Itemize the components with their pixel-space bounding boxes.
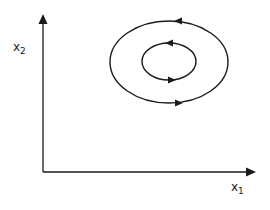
x-axis-arrow-icon bbox=[246, 168, 256, 177]
inner-orbit-arrow-bottom-icon bbox=[168, 77, 176, 84]
outer-orbit-arrow-bottom-icon bbox=[175, 100, 183, 107]
x-axis-label: x1 bbox=[231, 180, 244, 196]
y-axis-label: x2 bbox=[13, 40, 26, 56]
inner-orbit bbox=[142, 43, 196, 80]
outer-orbit bbox=[110, 21, 228, 103]
outer-orbit-arrow-top-icon bbox=[174, 18, 182, 25]
inner-orbit-arrow-top-icon bbox=[165, 40, 173, 47]
y-axis-arrow-icon bbox=[39, 14, 48, 24]
phase-diagram bbox=[0, 0, 270, 210]
